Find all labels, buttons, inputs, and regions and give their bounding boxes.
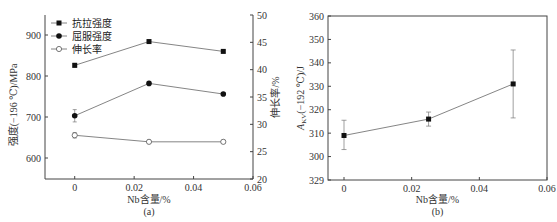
series-2 [72,133,226,145]
y-right-tick-label: 50 [257,10,267,21]
data-point [511,81,516,86]
panel-label: (b) [432,206,444,218]
data-point [221,49,226,54]
data-point [426,117,431,122]
y-tick-label: 360 [309,11,324,22]
y-left-tick-label: 900 [26,30,41,41]
legend-label: 抗拉强度 [72,17,112,29]
legend-marker [57,21,62,26]
panel-label: (a) [143,206,154,218]
data-point [221,139,226,144]
data-point [146,139,151,144]
x-tick-label: 0.04 [471,183,489,194]
y-tick-label: 310 [309,128,324,139]
data-point [147,39,152,44]
x-tick-label: 0.02 [125,182,143,193]
chart-a: 00.020.040.0660070080090020253035404550N… [7,10,281,219]
x-tick-label: 0.06 [538,183,556,194]
y-left-tick-label: 600 [26,153,41,164]
y-left-tick-label: 800 [26,71,41,82]
series-1 [72,81,226,122]
figure: 00.020.040.0660070080090020253035404550N… [0,0,557,222]
y-right-tick-label: 35 [257,92,267,103]
legend: 抗拉强度屈服强度伸长率 [51,17,112,55]
x-tick-label: 0 [72,182,77,193]
y-tick-label: 330 [309,81,324,92]
x-axis-label: Nb含量/% [416,193,459,205]
y-right-tick-label: 20 [257,174,267,185]
chart-b: 00.020.040.06329300310320330340350360Nb含… [295,11,556,219]
data-point [72,133,77,138]
x-tick-label: 0.04 [185,182,203,193]
x-axis-label: Nb含量/% [127,193,170,205]
legend-marker [56,46,61,51]
y-left-tick-label: 700 [26,112,41,123]
y-right-tick-label: 25 [257,146,267,157]
y-tick-label: 320 [309,104,324,115]
x-tick-label: 0.02 [403,183,421,194]
legend-label: 伸长率 [72,43,102,55]
y-left-axis-label: 强度(−196 ℃)/MPa [7,63,20,146]
y-tick-label: 300 [309,151,324,162]
y-tick-label: 340 [309,57,324,68]
data-point [342,133,347,138]
y-right-axis-label: 伸长率/% [269,76,281,117]
legend-marker [56,33,62,39]
x-tick-label: 0 [342,183,347,194]
y-tick-label: 329 [309,175,324,186]
data-point [220,91,226,97]
data-point [72,113,78,119]
axes-frame [328,16,547,180]
legend-label: 屈服强度 [72,30,112,42]
series-0 [342,50,516,150]
y-right-tick-label: 30 [257,119,267,130]
data-point [72,63,77,68]
y-axis-label: AKV(−192 ℃)/J [295,66,308,131]
y-tick-label: 350 [309,34,324,45]
y-right-tick-label: 45 [257,37,267,48]
data-point [146,81,152,87]
y-right-tick-label: 40 [257,64,267,75]
